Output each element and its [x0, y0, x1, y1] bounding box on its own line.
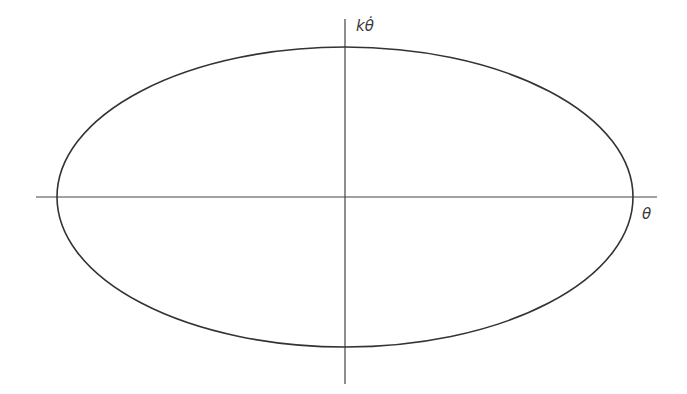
y-axis-label: kθ̇ — [356, 16, 374, 35]
phase-portrait-diagram: kθ̇ θ — [0, 0, 687, 394]
x-axis-label: θ — [642, 205, 651, 223]
